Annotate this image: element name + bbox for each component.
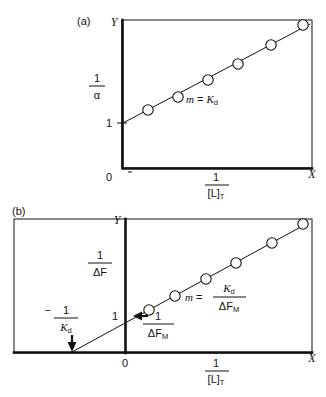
panel-a-y-axis-letter: Y [111, 15, 119, 29]
left-arrow-icon [133, 312, 142, 321]
panel-b-x-intercept-denominator-sub: d [68, 326, 72, 335]
panel-b-y-axis-letter: Y [114, 213, 122, 227]
panel-b-x-intercept-numerator: 1 [63, 304, 69, 316]
panel-b-slope-equals: = [196, 291, 202, 303]
panel-a-y-tick-label: 1 [106, 117, 112, 129]
data-point [231, 258, 241, 268]
panel-b-tag: (b) [12, 205, 25, 217]
panel-b-slope-denominator-sub: M [233, 305, 239, 314]
panel-b-y-intercept-numerator: 1 [155, 310, 161, 322]
panel-a-y-title-denominator: α [94, 89, 101, 101]
data-point [144, 305, 154, 315]
data-point [203, 75, 213, 85]
plot-b-svg: (b) Y X 0 1 1 ΔF 1 [L]T − 1 Kd [0, 197, 326, 397]
plot-a-svg: (a) Y X 1 0 1 α 1 [L]T m=Kd [0, 0, 326, 200]
data-point [233, 59, 243, 69]
data-point [298, 20, 308, 30]
panel-b-slope-denominator: ΔF [219, 300, 233, 312]
panel-b-slope-m: m [185, 291, 193, 303]
data-point [173, 92, 183, 102]
panel-b-y-tick-label: 1 [112, 310, 118, 322]
panel-b-slope-denominator-group: ΔFM [219, 300, 239, 314]
panel-b: (b) Y X 0 1 1 ΔF 1 [L]T − 1 Kd [0, 197, 326, 397]
data-point [267, 238, 277, 248]
panel-b-origin-label: 0 [122, 357, 128, 369]
panel-b-y-title-denominator: ΔF [93, 266, 107, 278]
data-point [201, 274, 211, 284]
data-point [298, 219, 308, 229]
panel-a-origin-label: 0 [106, 171, 112, 183]
panel-b-y-intercept-denominator: ΔF [148, 327, 162, 339]
panel-b-y-title-numerator: 1 [97, 249, 103, 261]
panel-a-slope-equals: = [197, 93, 203, 105]
panel-b-y-intercept-denominator-group: ΔFM [148, 327, 168, 341]
panel-b-slope-numerator-sub: d [231, 287, 235, 296]
data-point [143, 105, 153, 115]
panel-b-x-title-denominator: [L] [208, 373, 220, 385]
panel-a-slope-annotation: m=Kd [186, 93, 218, 107]
panel-b-slope-annotation: m= Kd ΔFM [185, 282, 246, 314]
panel-b-x-intercept-sign: − [45, 304, 51, 316]
panel-b-slope-lhs: m= [185, 291, 202, 303]
data-point [170, 291, 180, 301]
panel-b-x-intercept-label: − 1 Kd [45, 304, 78, 352]
panel-b-y-intercept-label: 1 ΔFM [133, 310, 174, 341]
panel-a-slope-m: m [186, 93, 194, 105]
panel-a-y-axis-title: 1 α [89, 72, 105, 101]
panel-b-y-axis-title: 1 ΔF [88, 249, 112, 278]
panel-a-frame [122, 20, 312, 168]
panel-a-slope-symbol-sub: d [214, 98, 218, 107]
panel-a-x-axis-title: 1 [L]T [205, 171, 229, 200]
panel-b-slope-numerator-group: Kd [222, 282, 235, 296]
panel-a-tag: (a) [77, 15, 90, 27]
panel-b-x-title-denominator-sub: T [220, 378, 225, 387]
panel-a-x-title-numerator: 1 [213, 171, 219, 183]
panel-b-x-intercept-denominator-group: Kd [59, 321, 72, 335]
data-point [266, 40, 276, 50]
panel-a-axes [123, 20, 313, 169]
panel-a-y-title-numerator: 1 [94, 72, 100, 84]
panel-b-x-axis-title: 1 [L]T [205, 357, 229, 387]
panel-b-x-title-denominator-group: [L]T [208, 373, 225, 387]
panel-a: (a) Y X 1 0 1 α 1 [L]T m=Kd [0, 0, 326, 200]
panel-b-y-intercept-denominator-sub: M [162, 332, 168, 341]
panel-b-x-title-numerator: 1 [213, 357, 219, 369]
